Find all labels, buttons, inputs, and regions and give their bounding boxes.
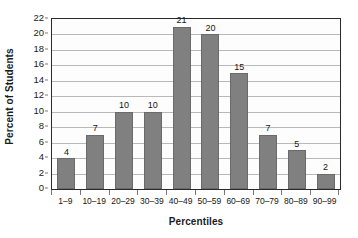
bars-layer: 471010212015752 bbox=[52, 19, 340, 189]
bar[interactable] bbox=[259, 135, 277, 189]
bar-value-label: 5 bbox=[282, 140, 311, 149]
bar-slot: 4 bbox=[52, 19, 81, 189]
bar-value-label: 10 bbox=[138, 101, 167, 110]
bar-value-label: 21 bbox=[167, 16, 196, 25]
bar[interactable] bbox=[173, 27, 191, 189]
bar-value-label: 10 bbox=[110, 101, 139, 110]
bar-slot: 15 bbox=[225, 19, 254, 189]
x-axis-tick-mark bbox=[310, 190, 311, 195]
bar-value-label: 7 bbox=[81, 124, 110, 133]
x-axis-tick-label: 20–29 bbox=[109, 197, 138, 206]
x-axis-tick-label: 10–19 bbox=[80, 197, 109, 206]
bar-value-label: 2 bbox=[311, 163, 340, 172]
x-axis-tick-mark bbox=[281, 190, 282, 195]
bar[interactable] bbox=[86, 135, 104, 189]
x-axis-tick-label: 80–89 bbox=[281, 197, 310, 206]
y-axis-tick-mark bbox=[45, 79, 48, 80]
bar-value-label: 4 bbox=[52, 148, 81, 157]
bar[interactable] bbox=[201, 34, 219, 189]
x-axis-tick-label: 40–49 bbox=[166, 197, 195, 206]
bar[interactable] bbox=[144, 112, 162, 189]
y-axis-tick-label: 20 bbox=[33, 29, 44, 39]
bar-value-label: 20 bbox=[196, 24, 225, 33]
x-axis-tick-label: 1–9 bbox=[51, 197, 80, 206]
x-axis-tick-mark bbox=[253, 190, 254, 195]
bar[interactable] bbox=[57, 158, 75, 189]
x-axis-tick-mark bbox=[166, 190, 167, 195]
y-axis-tick-mark bbox=[45, 157, 48, 158]
y-axis-tick-mark bbox=[45, 188, 48, 189]
x-axis-tick-label: 30–39 bbox=[137, 197, 166, 206]
bar-value-label: 7 bbox=[254, 124, 283, 133]
y-axis-tick-label: 8 bbox=[39, 121, 44, 131]
y-axis-tick-mark bbox=[45, 33, 48, 34]
y-axis-tick-label: 2 bbox=[39, 168, 44, 178]
y-axis-tick-label: 14 bbox=[33, 75, 44, 85]
bar-slot: 10 bbox=[138, 19, 167, 189]
y-axis-tick-mark bbox=[45, 48, 48, 49]
y-axis-title-text: Percent of Students bbox=[4, 48, 15, 144]
bar[interactable] bbox=[230, 73, 248, 189]
bar-slot: 10 bbox=[110, 19, 139, 189]
y-axis-tick-mark bbox=[45, 18, 48, 19]
x-axis-title: Percentiles bbox=[51, 216, 341, 227]
x-axis-tick-mark bbox=[109, 190, 110, 195]
y-axis-tick-mark bbox=[45, 126, 48, 127]
bar[interactable] bbox=[317, 174, 335, 189]
plot-area: 471010212015752 bbox=[51, 18, 341, 190]
x-axis-tick-mark bbox=[195, 190, 196, 195]
y-axis-tick-labels: 0246810121416182022 bbox=[18, 12, 48, 196]
y-axis-tick-label: 18 bbox=[33, 44, 44, 54]
x-axis-tick-mark bbox=[137, 190, 138, 195]
bar-slot: 2 bbox=[311, 19, 340, 189]
x-axis-tick-label: 90–99 bbox=[310, 197, 339, 206]
y-axis-tick-mark bbox=[45, 64, 48, 65]
bar-chart: Percent of Students 0246810121416182022 … bbox=[0, 0, 358, 238]
bar-slot: 5 bbox=[282, 19, 311, 189]
bar-slot: 7 bbox=[254, 19, 283, 189]
y-axis-tick-label: 22 bbox=[33, 13, 44, 23]
x-axis-tick-mark bbox=[51, 190, 52, 195]
y-axis-tick-label: 6 bbox=[39, 137, 44, 147]
y-axis-tick-label: 4 bbox=[39, 152, 44, 162]
y-axis-tick-mark bbox=[45, 172, 48, 173]
bar[interactable] bbox=[288, 150, 306, 189]
x-axis-tick-marks bbox=[51, 190, 341, 195]
x-axis-tick-labels: 1–910–1920–2930–3940–4950–5960–6970–7980… bbox=[51, 197, 341, 213]
y-axis-tick-mark bbox=[45, 110, 48, 111]
x-axis-tick-label: 50–59 bbox=[195, 197, 224, 206]
x-axis-tick-mark bbox=[338, 190, 339, 195]
y-axis-tick-label: 12 bbox=[33, 91, 44, 101]
y-axis-tick-label: 16 bbox=[33, 60, 44, 70]
y-axis-tick-mark bbox=[45, 95, 48, 96]
y-axis-tick-label: 10 bbox=[33, 106, 44, 116]
x-axis-tick-mark bbox=[80, 190, 81, 195]
bar-slot: 7 bbox=[81, 19, 110, 189]
x-axis-tick-mark bbox=[224, 190, 225, 195]
x-axis-tick-label: 60–69 bbox=[224, 197, 253, 206]
y-axis-tick-label: 0 bbox=[39, 183, 44, 193]
y-axis-title: Percent of Students bbox=[0, 0, 18, 192]
bar-value-label: 15 bbox=[225, 63, 254, 72]
bar-slot: 20 bbox=[196, 19, 225, 189]
bar[interactable] bbox=[115, 112, 133, 189]
x-axis-tick-label: 70–79 bbox=[253, 197, 282, 206]
bar-slot: 21 bbox=[167, 19, 196, 189]
y-axis-tick-mark bbox=[45, 141, 48, 142]
